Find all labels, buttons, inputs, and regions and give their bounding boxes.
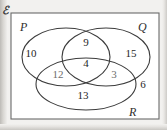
region-value-p-and-q-and-r: 4 [83,58,89,69]
set-label-p: P [20,21,27,33]
set-label-q: Q [138,21,147,33]
region-value-q-and-r: 3 [111,69,117,80]
region-value-p-and-r: 12 [53,69,64,80]
region-value-p-and-q: 9 [83,37,89,48]
region-value-outside-all-sets: 6 [140,79,146,90]
region-value-r-only: 13 [78,90,89,101]
region-value-q-only: 15 [126,48,137,59]
set-label-r: R [129,106,136,118]
venn-diagram-figure: ℰ P Q R 10 9 15 4 12 3 13 6 [0,0,167,130]
region-value-p-only: 10 [26,48,37,59]
